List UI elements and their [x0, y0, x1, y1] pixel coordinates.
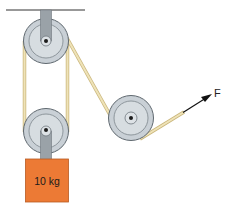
mass-label: 10 kg [34, 175, 60, 187]
force-label: F [214, 87, 221, 99]
axle-icon [44, 39, 48, 43]
force-arrow [183, 94, 212, 113]
bottom-pulley [24, 109, 69, 162]
right-pulley [109, 96, 154, 141]
pulley-diagram: F 10 kg [0, 0, 231, 217]
axle-icon [44, 128, 48, 132]
top-pulley [24, 10, 69, 64]
axle-icon [129, 116, 133, 120]
